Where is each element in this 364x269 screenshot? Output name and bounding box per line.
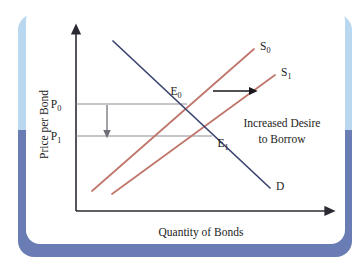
equilibrium-label-e1-base: E: [217, 137, 224, 149]
y-tick-p0-sub: 0: [57, 104, 61, 113]
curve-label-d: D: [276, 180, 284, 192]
equilibrium-label-e0-sub: 0: [177, 91, 181, 100]
chart-card: Price per Bond Quantity of Bonds P0 P1 S…: [26, 7, 345, 244]
curve-label-s1: S1: [281, 66, 292, 81]
y-tick-p1-sub: 1: [57, 136, 61, 145]
y-tick-p1: P1: [51, 130, 62, 145]
curve-s0: [92, 49, 254, 191]
curve-d: [113, 41, 270, 188]
y-tick-p0: P0: [51, 98, 62, 113]
x-axis-title: Quantity of Bonds: [159, 226, 244, 239]
equilibrium-label-e1: E1: [217, 137, 228, 152]
equilibrium-label-e1-sub: 1: [224, 143, 228, 152]
curve-s1: [112, 75, 275, 194]
y-axis-title: Price per Bond: [38, 90, 51, 159]
curve-label-s0: S0: [260, 40, 271, 55]
equilibrium-label-e0: E0: [170, 85, 181, 100]
supply-demand-plot: Price per Bond Quantity of Bonds P0 P1 S…: [26, 7, 345, 244]
annotation-line-1: Increased Desire: [244, 117, 321, 129]
annotation-line-2: to Borrow: [259, 133, 307, 145]
figure-root: Price per Bond Quantity of Bonds P0 P1 S…: [0, 0, 364, 269]
equilibrium-label-e0-base: E: [170, 85, 177, 97]
curve-label-s1-sub: 1: [287, 72, 291, 81]
curve-label-s0-sub: 0: [266, 46, 270, 55]
